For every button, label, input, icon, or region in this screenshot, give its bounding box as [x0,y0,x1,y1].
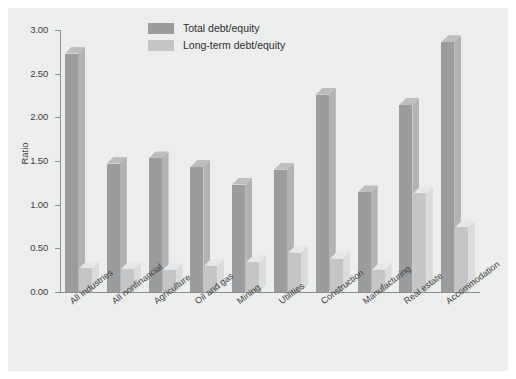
bar-total-0 [65,54,78,292]
y-tick-mark [55,205,60,206]
bar-total-6 [316,95,329,292]
bar-longterm-8 [413,193,426,292]
y-tick-label: 0.50 [0,242,48,253]
bar-total-3 [190,167,203,292]
y-tick-label: 3.00 [0,24,48,35]
legend-swatch-icon [148,23,174,34]
bar-total-9 [441,42,454,292]
y-tick-mark [55,292,60,293]
chart-legend: Total debt/equityLong-term debt/equity [148,22,285,56]
y-tick-mark [55,117,60,118]
y-tick-label: 1.50 [0,155,48,166]
chart-figure: Ratio 0.000.501.001.502.002.503.00 All i… [0,0,516,379]
y-tick-mark [55,248,60,249]
bar-total-5 [274,170,287,292]
y-axis-title: Ratio [19,124,30,184]
legend-item-0[interactable]: Total debt/equity [148,22,285,34]
y-tick-mark [55,74,60,75]
legend-item-1[interactable]: Long-term debt/equity [148,39,285,51]
y-tick-label: 0.00 [0,286,48,297]
legend-swatch-icon [148,40,174,51]
y-tick-mark [55,161,60,162]
legend-label: Long-term debt/equity [183,39,285,51]
y-tick-label: 2.50 [0,68,48,79]
y-axis-line [60,30,61,292]
y-tick-mark [55,30,60,31]
legend-label: Total debt/equity [183,22,259,34]
bar-total-0-side [78,47,85,292]
y-tick-label: 1.00 [0,199,48,210]
y-tick-label: 2.00 [0,111,48,122]
